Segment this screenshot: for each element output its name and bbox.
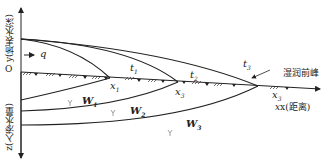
inflow-label: q bbox=[40, 48, 46, 59]
infiltration-label-w3: W3 bbox=[186, 118, 201, 131]
z-axis-label: z(入渗水量) bbox=[2, 103, 15, 151]
infiltration-profile-w2 bbox=[21, 82, 178, 111]
time-label-t3: t3 bbox=[243, 58, 251, 71]
infiltration-label-w1: W1 bbox=[82, 95, 97, 108]
y-axis-label: y(地表水深) bbox=[2, 14, 15, 62]
surface-profile-t2 bbox=[21, 39, 178, 82]
position-label-x1: x1 bbox=[110, 80, 119, 93]
x-axis-label: xx(距离) bbox=[275, 100, 310, 113]
wetting-front-arrow bbox=[252, 70, 270, 78]
time-label-t1: t1 bbox=[130, 62, 138, 75]
time-label-t2: t2 bbox=[190, 69, 198, 82]
furrow-irrigation-diagram bbox=[0, 0, 329, 163]
infiltration-label-w2: W2 bbox=[130, 105, 145, 118]
wetting-front-label: 湿润前峰 bbox=[283, 66, 319, 79]
surface-profile-t1 bbox=[21, 39, 110, 78]
position-label-x2: x3 bbox=[175, 86, 184, 99]
origin-label: O bbox=[5, 64, 12, 74]
